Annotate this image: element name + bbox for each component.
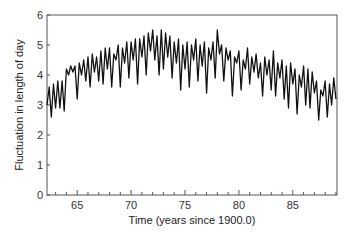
y-tick-label: 5	[37, 39, 43, 51]
x-tick-label: 80	[233, 199, 245, 211]
x-tick-label: 70	[125, 199, 137, 211]
y-tick-label: 6	[37, 9, 43, 21]
series-line	[47, 30, 336, 120]
x-tick-label: 65	[71, 199, 83, 211]
line-chart: 01234566570758085 Time (years since 1900…	[0, 0, 355, 239]
x-tick-label: 85	[287, 199, 299, 211]
y-axis-title: Fluctuation in length of day	[13, 39, 25, 171]
x-tick-label: 75	[179, 199, 191, 211]
y-tick-label: 4	[37, 69, 43, 81]
plot-frame	[47, 15, 337, 195]
y-tick-label: 3	[37, 99, 43, 111]
y-tick-label: 0	[37, 189, 43, 201]
y-tick-label: 1	[37, 159, 43, 171]
axis-ticks: 01234566570758085	[37, 9, 336, 211]
y-tick-label: 2	[37, 129, 43, 141]
x-axis-title: Time (years since 1900.0)	[129, 214, 256, 226]
plot-axes	[47, 15, 337, 195]
